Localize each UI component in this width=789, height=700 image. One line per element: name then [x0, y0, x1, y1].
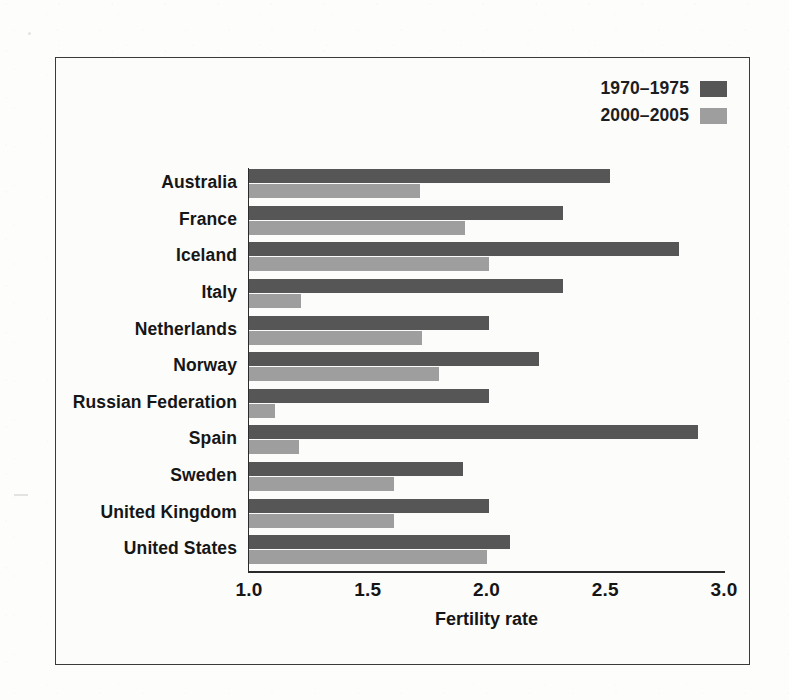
x-tick-label: 1.0	[235, 579, 262, 601]
bar-light	[249, 257, 489, 271]
x-axis-line	[248, 571, 725, 573]
x-tick-label: 1.5	[354, 579, 381, 601]
bar-light	[249, 550, 487, 564]
category-label: Sweden	[170, 465, 237, 486]
bar-group: Australia	[249, 168, 724, 205]
category-label: Russian Federation	[73, 392, 237, 413]
bar-dark	[249, 242, 679, 256]
bar-group: Sweden	[249, 461, 724, 498]
bar-light	[249, 221, 465, 235]
bar-dark	[249, 206, 563, 220]
bar-group: Netherlands	[249, 315, 724, 352]
bar-group: Spain	[249, 424, 724, 461]
scanned-page: 1970–1975 2000–2005 AustraliaFranceIcela…	[0, 0, 789, 700]
legend-item-1970-1975: 1970–1975	[601, 78, 728, 99]
category-label: United States	[124, 538, 237, 559]
chart-figure-frame: 1970–1975 2000–2005 AustraliaFranceIcela…	[55, 57, 750, 665]
bar-light	[249, 440, 299, 454]
category-label: Spain	[189, 428, 237, 449]
bar-group: United States	[249, 534, 724, 571]
category-label: France	[179, 209, 237, 230]
bar-group: Norway	[249, 351, 724, 388]
bar-light	[249, 294, 301, 308]
category-label: Iceland	[176, 245, 237, 266]
x-tick-label: 3.0	[710, 579, 737, 601]
bar-group: Russian Federation	[249, 388, 724, 425]
bar-light	[249, 367, 439, 381]
bar-light	[249, 477, 394, 491]
category-label: Norway	[173, 355, 237, 376]
bar-dark	[249, 352, 539, 366]
bar-dark	[249, 389, 489, 403]
x-axis-title: Fertility rate	[435, 609, 538, 630]
category-label: Italy	[201, 282, 237, 303]
bar-dark	[249, 316, 489, 330]
legend-label-2000-2005: 2000–2005	[601, 105, 690, 126]
bar-light	[249, 184, 420, 198]
scan-artifact-top-left	[28, 32, 31, 35]
x-tick-label: 2.5	[592, 579, 619, 601]
bar-group: United Kingdom	[249, 498, 724, 535]
legend-swatch-2000-2005	[700, 108, 727, 124]
legend-item-2000-2005: 2000–2005	[601, 105, 728, 126]
bar-dark	[249, 499, 489, 513]
bar-dark	[249, 169, 610, 183]
category-label: Netherlands	[135, 319, 237, 340]
chart-legend: 1970–1975 2000–2005	[601, 78, 728, 126]
x-tick-label: 2.0	[473, 579, 500, 601]
category-label: Australia	[161, 172, 237, 193]
bar-dark	[249, 535, 510, 549]
bar-group: Iceland	[249, 241, 724, 278]
bar-dark	[249, 425, 698, 439]
bar-light	[249, 331, 422, 345]
bar-dark	[249, 279, 563, 293]
bar-group: Italy	[249, 278, 724, 315]
plot-area: AustraliaFranceIcelandItalyNetherlandsNo…	[249, 168, 724, 571]
legend-swatch-1970-1975	[700, 81, 727, 97]
bar-dark	[249, 462, 463, 476]
bar-light	[249, 404, 275, 418]
scan-artifact-left-margin	[14, 494, 28, 496]
bar-group: France	[249, 205, 724, 242]
category-label: United Kingdom	[100, 502, 237, 523]
bar-light	[249, 514, 394, 528]
legend-label-1970-1975: 1970–1975	[601, 78, 690, 99]
